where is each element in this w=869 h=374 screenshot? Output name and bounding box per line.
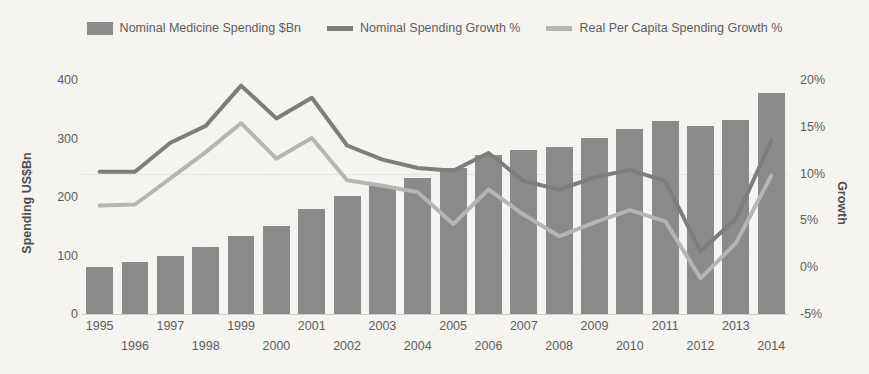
x-axis-baseline bbox=[82, 314, 789, 315]
legend-label: Nominal Spending Growth % bbox=[360, 22, 521, 35]
x-tick-label: 2004 bbox=[404, 340, 432, 353]
x-tick-label: 2013 bbox=[722, 320, 750, 333]
legend-item-nominal-growth[interactable]: Nominal Spending Growth % bbox=[327, 22, 521, 35]
y-tick-right: 20% bbox=[800, 74, 825, 87]
x-label-slot: 2001 bbox=[294, 316, 329, 360]
x-label-slot: 2013 bbox=[718, 316, 753, 360]
y-axis-left-ticks: 4003002001000 bbox=[36, 80, 78, 314]
bar-swatch-icon bbox=[87, 22, 113, 35]
x-tick-label: 2000 bbox=[262, 340, 290, 353]
y-tick-right: 15% bbox=[800, 121, 825, 134]
y-axis-left-title: Spending US$Bn bbox=[20, 143, 34, 263]
x-tick-label: 1997 bbox=[156, 320, 184, 333]
x-label-slot: 2004 bbox=[400, 316, 435, 360]
x-label-slot: 2012 bbox=[683, 316, 718, 360]
x-label-slot: 2014 bbox=[754, 316, 789, 360]
x-tick-label: 1996 bbox=[121, 340, 149, 353]
legend-label: Real Per Capita Spending Growth % bbox=[579, 22, 782, 35]
line-real-per-capita-growth bbox=[100, 123, 772, 278]
y-tick-left: 300 bbox=[57, 132, 78, 145]
x-tick-label: 2003 bbox=[369, 320, 397, 333]
line-swatch-icon bbox=[546, 26, 572, 31]
chart-legend: Nominal Medicine Spending $Bn Nominal Sp… bbox=[0, 22, 869, 35]
x-tick-label: 1999 bbox=[227, 320, 255, 333]
plot-area bbox=[82, 80, 789, 314]
legend-item-real-per-capita-growth[interactable]: Real Per Capita Spending Growth % bbox=[546, 22, 782, 35]
x-tick-label: 2010 bbox=[616, 340, 644, 353]
x-tick-label: 1998 bbox=[192, 340, 220, 353]
y-tick-right: 10% bbox=[800, 167, 825, 180]
x-tick-label: 2001 bbox=[298, 320, 326, 333]
legend-item-nominal-spending[interactable]: Nominal Medicine Spending $Bn bbox=[87, 22, 301, 35]
x-label-slot: 2010 bbox=[612, 316, 647, 360]
x-label-slot: 2000 bbox=[259, 316, 294, 360]
line-series-overlay bbox=[82, 80, 789, 314]
x-axis-labels: 1995199619971998199920002001200220032004… bbox=[82, 316, 789, 360]
x-tick-label: 1995 bbox=[86, 320, 114, 333]
x-tick-label: 2006 bbox=[475, 340, 503, 353]
x-label-slot: 2008 bbox=[541, 316, 576, 360]
y-tick-left: 0 bbox=[71, 308, 78, 321]
legend-label: Nominal Medicine Spending $Bn bbox=[120, 22, 301, 35]
x-label-slot: 2003 bbox=[365, 316, 400, 360]
x-label-slot: 2005 bbox=[435, 316, 470, 360]
x-tick-label: 2002 bbox=[333, 340, 361, 353]
x-label-slot: 2009 bbox=[577, 316, 612, 360]
chart-canvas: Nominal Medicine Spending $Bn Nominal Sp… bbox=[0, 0, 869, 374]
x-tick-label: 2009 bbox=[581, 320, 609, 333]
line-swatch-icon bbox=[327, 26, 353, 31]
y-tick-right: 5% bbox=[800, 214, 818, 227]
x-tick-label: 2007 bbox=[510, 320, 538, 333]
x-label-slot: 1995 bbox=[82, 316, 117, 360]
x-tick-label: 2008 bbox=[545, 340, 573, 353]
x-label-slot: 1999 bbox=[223, 316, 258, 360]
x-tick-label: 2005 bbox=[439, 320, 467, 333]
x-tick-label: 2011 bbox=[652, 320, 679, 333]
y-tick-left: 100 bbox=[57, 249, 78, 262]
x-label-slot: 2006 bbox=[471, 316, 506, 360]
x-tick-label: 2012 bbox=[687, 340, 715, 353]
y-tick-right: 0% bbox=[800, 261, 818, 274]
y-axis-right-title: Growth bbox=[835, 143, 849, 263]
y-tick-left: 400 bbox=[57, 74, 78, 87]
x-tick-label: 2014 bbox=[757, 340, 785, 353]
x-label-slot: 2007 bbox=[506, 316, 541, 360]
x-label-slot: 2002 bbox=[329, 316, 364, 360]
x-label-slot: 2011 bbox=[648, 316, 683, 360]
y-tick-left: 200 bbox=[57, 191, 78, 204]
x-label-slot: 1997 bbox=[153, 316, 188, 360]
x-label-slot: 1998 bbox=[188, 316, 223, 360]
x-label-slot: 1996 bbox=[117, 316, 152, 360]
y-tick-right: -5% bbox=[800, 308, 822, 321]
